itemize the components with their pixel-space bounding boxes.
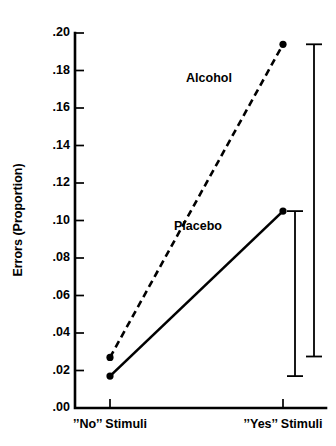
series-placebo — [106, 208, 286, 380]
y-axis-title: Errors (Proportion) — [11, 163, 25, 276]
y-tick-label: .12 — [53, 175, 70, 189]
y-tick-label: .00 — [53, 400, 70, 414]
y-tick-label: .18 — [53, 63, 70, 77]
alcohol-data-point-yes-stimuli — [279, 41, 286, 48]
y-tick-label: .04 — [53, 325, 70, 339]
y-tick-label: .02 — [53, 363, 70, 377]
annotation-placebo: Placebo — [174, 219, 222, 233]
alcohol-line — [110, 44, 283, 357]
series-alcohol — [106, 41, 286, 361]
errors-proportion-line-chart: .00 .02 .04 .06 .08 .10 .12 .14 .16 .18 … — [0, 0, 336, 446]
annotation-alcohol: Alcohol — [186, 71, 232, 85]
y-tick-label: .06 — [53, 288, 70, 302]
y-axis-ticks — [75, 33, 84, 408]
placebo-data-point-yes-stimuli — [279, 208, 286, 215]
errorbar-placebo — [287, 211, 303, 376]
errorbar-alcohol — [306, 44, 322, 356]
y-tick-label: .20 — [53, 25, 70, 39]
y-tick-label: .10 — [53, 213, 70, 227]
x-axis-tick-labels: ’’No’’ Stimuli ’’Yes’’ Stimuli — [73, 417, 323, 431]
y-tick-label: .16 — [53, 100, 70, 114]
chart-figure: .00 .02 .04 .06 .08 .10 .12 .14 .16 .18 … — [0, 0, 336, 446]
x-axis-ticks — [110, 399, 283, 408]
alcohol-data-point-no-stimuli — [106, 354, 113, 361]
y-tick-label: .08 — [53, 250, 70, 264]
y-tick-label: .14 — [53, 138, 70, 152]
y-axis-title-group: Errors (Proportion) — [11, 163, 25, 276]
placebo-data-point-no-stimuli — [106, 373, 113, 380]
y-axis-tick-labels: .00 .02 .04 .06 .08 .10 .12 .14 .16 .18 … — [53, 25, 70, 414]
x-tick-label-no-stimuli: ’’No’’ Stimuli — [73, 417, 147, 431]
x-tick-label-yes-stimuli: ’’Yes’’ Stimuli — [244, 417, 323, 431]
placebo-line — [110, 211, 283, 376]
